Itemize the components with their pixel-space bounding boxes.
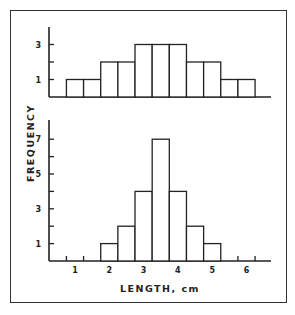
y-tick-label: 3 (35, 205, 41, 214)
histogram-bar (204, 62, 221, 97)
y-tick-label: 7 (35, 135, 41, 144)
histogram-bar (66, 80, 83, 98)
histogram-bar (221, 80, 238, 98)
histogram-bar (204, 244, 221, 261)
histogram-chart: 131357123456 (0, 0, 295, 315)
x-tick-label: 6 (244, 266, 250, 275)
histogram-bar (135, 191, 152, 261)
x-tick-label: 5 (209, 266, 215, 275)
histogram-bar (169, 191, 186, 261)
x-tick-label: 2 (107, 266, 113, 275)
x-axis-label: LENGTH, cm (120, 283, 200, 294)
histogram-bar (238, 80, 255, 98)
y-tick-label: 3 (35, 41, 41, 50)
histogram-bar (186, 62, 203, 97)
x-tick-label: 1 (72, 266, 78, 275)
y-tick-label: 1 (35, 76, 41, 85)
histogram-bar (118, 62, 135, 97)
histogram-bar (152, 45, 169, 98)
y-tick-label: 1 (35, 240, 41, 249)
y-tick-label: 5 (35, 170, 41, 179)
histogram-bar (101, 62, 118, 97)
histogram-bar (135, 45, 152, 98)
histogram-bar (101, 244, 118, 261)
histogram-bar (84, 80, 101, 98)
histogram-bar (169, 45, 186, 98)
y-axis-label: FREQUENCY (25, 104, 36, 182)
histogram-bar (186, 226, 203, 261)
histogram-bar (152, 139, 169, 261)
histogram-bar (118, 226, 135, 261)
x-tick-label: 4 (175, 266, 181, 275)
x-tick-label: 3 (141, 266, 147, 275)
